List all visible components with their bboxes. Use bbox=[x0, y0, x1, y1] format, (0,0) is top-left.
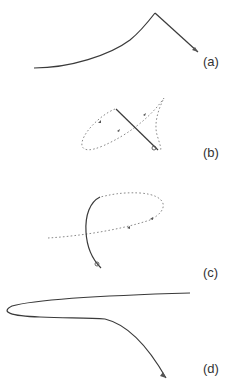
panel-c-graphic bbox=[48, 193, 163, 268]
panel-d-end-marker bbox=[160, 372, 166, 378]
panel-b-solid-segment bbox=[116, 109, 158, 150]
panel-b-dotted-loop bbox=[82, 98, 164, 150]
panel-c-arrow-2 bbox=[150, 217, 153, 220]
trajectory-diagram bbox=[0, 0, 235, 391]
panel-d-graphic bbox=[7, 293, 190, 378]
panel-c-solid-curve bbox=[86, 197, 101, 268]
panel-a-curve bbox=[34, 13, 155, 68]
panel-c-label: (c) bbox=[203, 265, 218, 280]
panel-d-hairpin-curve bbox=[7, 293, 190, 319]
panel-b-label: (b) bbox=[203, 145, 219, 160]
panel-b-arrow-3 bbox=[143, 113, 146, 116]
panel-a-graphic bbox=[34, 13, 198, 68]
panel-a-label: (a) bbox=[203, 54, 219, 69]
panel-c-dotted-loop bbox=[48, 193, 163, 238]
panel-b-arrow-2 bbox=[117, 129, 120, 132]
panel-b-graphic bbox=[82, 98, 164, 150]
panel-d-label: (d) bbox=[203, 361, 219, 376]
panel-d-descending-curve bbox=[105, 319, 166, 378]
panel-a-segment bbox=[155, 13, 198, 52]
panel-b-arrow-1 bbox=[98, 120, 101, 123]
